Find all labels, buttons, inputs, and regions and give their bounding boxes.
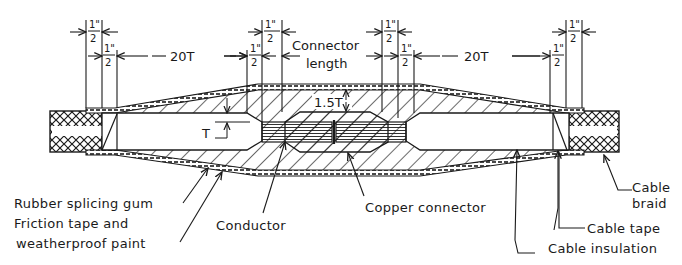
- svg-text:1": 1": [553, 43, 564, 54]
- svg-text:1": 1": [250, 43, 261, 54]
- svg-text:2: 2: [90, 33, 96, 44]
- label-cable-insulation: Cable insulation: [548, 241, 657, 256]
- half-inch-6: 1"2: [400, 43, 412, 68]
- half-inch-5: 1"2: [384, 19, 396, 44]
- left-taper-dimension: 20T: [170, 49, 195, 64]
- right-taper-dimension: 20T: [464, 49, 489, 64]
- label-cable-tape: Cable tape: [587, 221, 660, 236]
- connector-length-label-1: Connector: [292, 38, 360, 53]
- label-conductor: Conductor: [216, 218, 286, 233]
- svg-text:2: 2: [554, 57, 560, 68]
- half-inch-8: 1"2: [568, 19, 580, 44]
- label-cable-braid-1: Cable: [632, 180, 670, 195]
- half-inch-3: 1"2: [264, 19, 280, 44]
- right-cable-braid: [569, 111, 619, 152]
- svg-text:1": 1": [569, 19, 580, 30]
- svg-text:2: 2: [267, 33, 273, 44]
- connector-length-label-2: length: [306, 56, 347, 71]
- svg-text:2: 2: [251, 57, 257, 68]
- svg-text:2: 2: [386, 33, 392, 44]
- right-cable-insulation: [406, 113, 569, 150]
- cable-splice-diagram: 1"2 1"2 1"2 1"2 1"2 1"2 1"2 1"2 20T 20T …: [0, 0, 682, 265]
- conductor: [262, 120, 406, 144]
- svg-text:1": 1": [385, 19, 396, 30]
- svg-text:1": 1": [265, 19, 276, 30]
- label-cable-braid-2: braid: [632, 196, 667, 211]
- half-inch-1: 1"2: [88, 19, 100, 44]
- half-inch-2: 1"2: [103, 43, 115, 68]
- svg-text:2: 2: [105, 57, 111, 68]
- svg-text:1": 1": [89, 19, 100, 30]
- svg-text:2: 2: [570, 33, 576, 44]
- svg-text:2: 2: [402, 57, 408, 68]
- label-rubber-splicing-gum: Rubber splicing gum: [14, 196, 153, 211]
- half-inch-4: 1"2: [249, 43, 261, 68]
- svg-text:1": 1": [104, 43, 115, 54]
- svg-text:1": 1": [401, 43, 412, 54]
- svg-text:1.5T: 1.5T: [314, 95, 343, 110]
- svg-text:T: T: [201, 126, 210, 141]
- label-friction-tape-2: weatherproof paint: [16, 236, 146, 251]
- label-friction-tape-1: Friction tape and: [14, 216, 129, 231]
- half-inch-7: 1"2: [552, 43, 564, 68]
- label-copper-connector: Copper connector: [365, 200, 486, 215]
- left-cable-insulation: [102, 113, 262, 150]
- left-cable-braid: [50, 111, 102, 152]
- diagram-canvas: 1"2 1"2 1"2 1"2 1"2 1"2 1"2 1"2 20T 20T …: [0, 0, 682, 265]
